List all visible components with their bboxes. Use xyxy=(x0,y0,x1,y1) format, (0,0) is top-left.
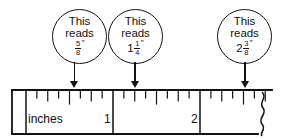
callout-2-arrow xyxy=(131,62,140,88)
callout-1-line2: reads xyxy=(65,28,93,40)
callout-2-value: 1 1 4 ″ xyxy=(127,40,143,57)
callout-3-arrow-shaft xyxy=(244,62,246,82)
callout-bubble-2: This reads 1 1 4 ″ xyxy=(108,9,163,64)
ruler-diagram: inches 1 2 This reads 5 8 ″ This reads 1… xyxy=(0,0,282,138)
callout-bubble-1: This reads 5 8 ″ xyxy=(52,9,107,64)
callout-1-value: 5 8 ″ xyxy=(74,40,84,57)
callout-2-denominator: 4 xyxy=(134,49,140,57)
callout-3-arrow-head xyxy=(241,81,249,88)
callout-1-arrow-shaft xyxy=(74,62,76,82)
callout-3-fraction: 3 8 xyxy=(243,40,249,57)
callout-2-whole: 1 xyxy=(127,43,133,55)
ruler-inch-label-1: 1 xyxy=(104,113,111,125)
ruler-unit-label: inches xyxy=(28,113,63,125)
callout-2-arrow-shaft xyxy=(134,62,136,82)
callout-3-denominator: 8 xyxy=(243,49,249,57)
callout-3-arrow xyxy=(241,62,250,88)
callout-1-arrow-head xyxy=(70,81,78,88)
callout-1-denominator: 8 xyxy=(75,49,81,57)
callout-1-arrow xyxy=(70,62,79,88)
callout-1-inch-mark: ″ xyxy=(82,39,85,47)
callout-3-line2: reads xyxy=(230,28,258,40)
callout-1-fraction: 5 8 xyxy=(75,40,81,57)
callout-2-inch-mark: ″ xyxy=(141,39,144,47)
callout-bubble-3: This reads 2 3 8 ″ xyxy=(217,9,272,64)
callout-3-whole: 2 xyxy=(236,43,242,55)
ruler-inch-label-2: 2 xyxy=(191,113,198,125)
callout-2-fraction: 1 4 xyxy=(134,40,140,57)
callout-3-inch-mark: ″ xyxy=(250,39,253,47)
callout-2-line2: reads xyxy=(121,28,149,40)
callout-3-value: 2 3 8 ″ xyxy=(236,40,252,57)
callout-2-arrow-head xyxy=(131,81,139,88)
